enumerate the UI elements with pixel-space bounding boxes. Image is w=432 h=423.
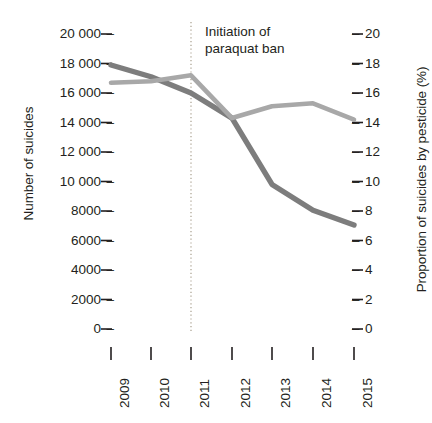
y-axis-right-tick-marks	[352, 34, 363, 329]
suicide-trend-chart: Number of suicides Proportion of suicide…	[0, 0, 432, 423]
plot-area	[0, 0, 432, 423]
x-axis-tick-marks	[111, 347, 354, 360]
data-series-lines	[111, 65, 354, 225]
series-line-2	[111, 75, 354, 119]
series-line-1	[111, 65, 354, 225]
y-axis-left-tick-marks	[101, 34, 112, 329]
